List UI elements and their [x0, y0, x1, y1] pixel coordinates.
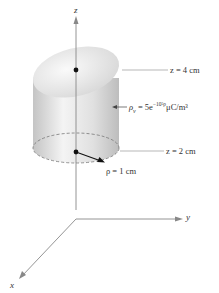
x-axis-label: x — [10, 280, 14, 290]
radius-label: ρ = 1 cm — [106, 166, 136, 176]
top-plane-label: z = 4 cm — [170, 65, 200, 75]
y-axis-label: y — [186, 212, 190, 222]
expr-prefix: = 5e — [136, 102, 153, 112]
bottom-plane-label: z = 2 cm — [166, 146, 196, 156]
exponent: −10⁵ρ — [153, 101, 166, 107]
z-axis-arrow-icon — [74, 16, 79, 24]
units: μC/m³ — [166, 102, 188, 112]
y-axis-arrow-icon — [175, 217, 183, 222]
charge-density-label: ρv = 5e−10⁵ρμC/m³ — [129, 101, 188, 114]
x-axis — [22, 219, 76, 276]
z-axis-label: z — [74, 5, 78, 15]
top-center-point — [74, 68, 79, 73]
x-axis-arrow-icon — [19, 271, 26, 279]
